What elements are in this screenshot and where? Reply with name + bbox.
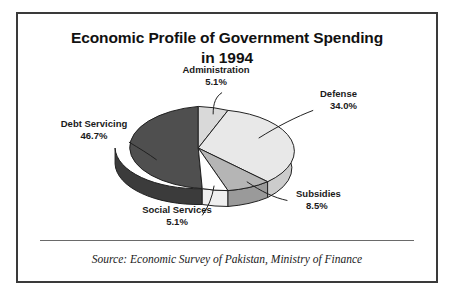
source-divider (40, 240, 414, 241)
pie-chart-plot-area: Administration 5.1% Defense 34.0% Subsid… (18, 62, 436, 240)
pie-label-social-services: Social Services 5.1% (122, 204, 232, 228)
pie-label-defense-value: 34.0% (320, 100, 394, 112)
pie-label-social-services-value: 5.1% (122, 216, 232, 228)
pie-label-debt-servicing-value: 46.7% (42, 130, 146, 142)
pie-label-administration-value: 5.1% (168, 76, 264, 88)
pie-label-debt-servicing: Debt Servicing 46.7% (42, 118, 146, 142)
title-line-1: Economic Profile of Government Spending (18, 28, 436, 48)
pie-label-administration-name: Administration (168, 64, 264, 76)
pie-label-defense-name: Defense (320, 88, 394, 100)
figure-frame: Economic Profile of Government Spending … (16, 12, 438, 283)
pie-label-subsidies: Subsidies 8.5% (296, 188, 370, 212)
pie-label-subsidies-name: Subsidies (296, 188, 370, 200)
pie-label-subsidies-value: 8.5% (296, 200, 370, 212)
pie-label-administration: Administration 5.1% (168, 64, 264, 88)
pie-top-face (130, 106, 295, 190)
source-note: Source: Economic Survey of Pakistan, Min… (18, 253, 436, 265)
pie-label-debt-servicing-name: Debt Servicing (42, 118, 146, 130)
pie-label-defense: Defense 34.0% (320, 88, 394, 112)
pie-label-social-services-name: Social Services (122, 204, 232, 216)
